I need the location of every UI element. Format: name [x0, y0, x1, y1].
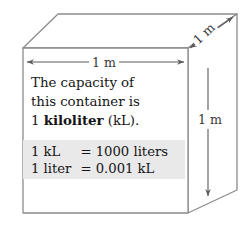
width-dimension-label: 1 m	[89, 55, 119, 70]
caption-line-3: 1 kiloliter (kL).	[31, 111, 181, 131]
conversion-highlight-box: 1 kL = 1000 liters 1 liter = 0.001 kL	[23, 140, 185, 179]
figure-canvas: 1 m 1 m 1 m The capacity of this contain…	[0, 0, 250, 228]
height-dimension-label: 1 m	[196, 110, 224, 129]
caption-line-3-prefix: 1	[31, 113, 44, 128]
caption-line-2: this container is	[31, 93, 181, 112]
annotation-layer: 1 m 1 m 1 m The capacity of this contain…	[0, 0, 250, 228]
caption-line-3-suffix: (kL).	[104, 113, 140, 128]
conversion-row-0-left: 1 kL	[31, 143, 80, 160]
conversion-row-1-left: 1 liter	[31, 160, 80, 177]
capacity-caption: The capacity of this container is 1 kilo…	[31, 74, 181, 131]
caption-line-1: The capacity of	[31, 74, 181, 93]
conversion-row-1-right: = 0.001 kL	[80, 160, 168, 177]
conversion-table: 1 kL = 1000 liters 1 liter = 0.001 kL	[31, 143, 168, 177]
table-row: 1 liter = 0.001 kL	[31, 160, 168, 177]
caption-line-3-bold-term: kiloliter	[44, 112, 104, 128]
table-row: 1 kL = 1000 liters	[31, 143, 168, 160]
conversion-row-0-right: = 1000 liters	[80, 143, 168, 160]
depth-dimension-label: 1 m	[189, 18, 220, 48]
